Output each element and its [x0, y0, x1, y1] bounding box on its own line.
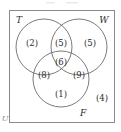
- region-count-t-and-f: (8): [38, 70, 50, 80]
- venn-diagram-canvas: T W F U (2) (5) (5) (6) (8) (9) (1) (4): [0, 0, 121, 132]
- region-count-t-only: (2): [26, 38, 38, 48]
- region-count-t-w-f: (6): [55, 57, 67, 67]
- region-count-outside: (4): [96, 93, 108, 103]
- scan-artifact-left: [46, 2, 55, 3]
- region-count-w-and-f: (9): [73, 70, 85, 80]
- region-count-w-only: (5): [84, 38, 96, 48]
- set-label-t: T: [16, 15, 23, 25]
- set-label-w: W: [99, 15, 109, 25]
- scan-artifact-right: [66, 2, 78, 3]
- venn-diagram-figure: T W F U (2) (5) (5) (6) (8) (9) (1) (4): [0, 0, 121, 132]
- set-label-f: F: [79, 108, 87, 118]
- region-count-f-only: (1): [55, 89, 67, 99]
- universe-label: U: [2, 114, 9, 123]
- region-count-t-and-w: (5): [55, 38, 67, 48]
